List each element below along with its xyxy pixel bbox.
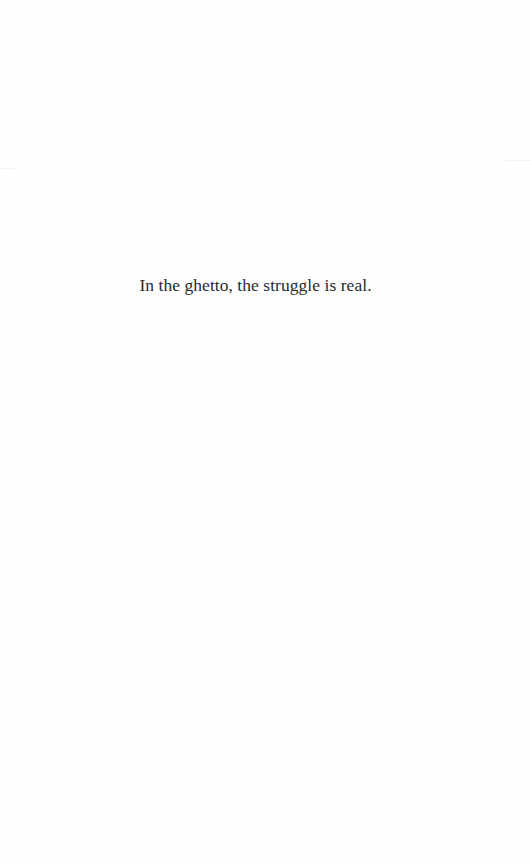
epigraph-text: In the ghetto, the struggle is real. xyxy=(0,274,511,296)
scan-artifact xyxy=(0,168,14,169)
book-page: In the ghetto, the struggle is real. xyxy=(0,0,530,863)
scan-artifact xyxy=(506,160,530,161)
